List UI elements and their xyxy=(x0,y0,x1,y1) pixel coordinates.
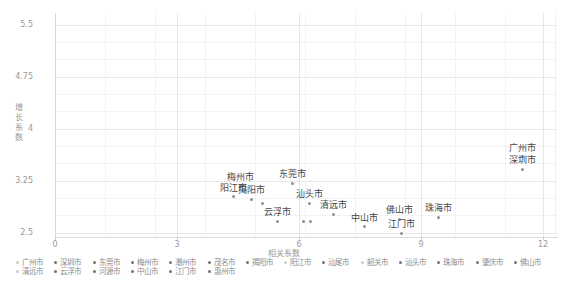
grid-minor-v xyxy=(205,13,206,237)
legend-marker-icon xyxy=(169,261,172,264)
data-point[interactable] xyxy=(309,220,312,223)
legend-marker-icon xyxy=(131,261,134,264)
grid-major-v xyxy=(177,13,178,237)
plot-area: 2.53.2544.755.5036912广州市深圳市梅州市东莞市阳江市揭阳市汕… xyxy=(0,0,563,289)
legend-item[interactable]: 阳江市 xyxy=(284,257,311,267)
grid-minor-h xyxy=(55,146,557,147)
grid-minor-v xyxy=(305,13,306,237)
legend-item-label: 汕尾市 xyxy=(328,258,349,267)
data-point-label: 江门市 xyxy=(388,219,415,229)
data-point[interactable] xyxy=(232,195,235,198)
legend-marker-icon xyxy=(54,261,57,264)
x-tick-label: 12 xyxy=(531,241,555,249)
grid-major-v xyxy=(299,13,300,237)
grid-major-h xyxy=(55,129,557,130)
legend-item[interactable]: 惠州市 xyxy=(208,266,235,276)
data-point-label: 清远市 xyxy=(320,200,347,210)
grid-minor-v xyxy=(505,13,506,237)
legend-marker-icon xyxy=(208,261,211,264)
x-tick-label: 0 xyxy=(43,241,67,249)
legend-item-label: 韶关市 xyxy=(367,258,388,267)
legend-item-label: 云浮市 xyxy=(60,267,81,276)
grid-minor-h xyxy=(55,59,557,60)
data-point[interactable] xyxy=(521,168,524,171)
legend-item-label: 肇庆市 xyxy=(482,258,503,267)
legend-item[interactable]: 肇庆市 xyxy=(476,257,503,267)
grid-minor-h xyxy=(55,215,557,216)
data-point[interactable] xyxy=(308,202,311,205)
grid-major-v xyxy=(543,13,544,237)
legend-item[interactable]: 韶关市 xyxy=(361,257,388,267)
grid-major-h xyxy=(55,181,557,182)
data-point[interactable] xyxy=(291,182,294,185)
legend-marker-icon xyxy=(361,261,364,264)
grid-minor-v xyxy=(105,13,106,237)
legend-marker-icon xyxy=(169,270,172,273)
legend-item[interactable]: 河源市 xyxy=(93,266,120,276)
legend-item[interactable]: 江门市 xyxy=(169,266,196,276)
legend-item[interactable]: 珠海市 xyxy=(437,257,464,267)
legend-marker-icon xyxy=(16,270,19,273)
y-tick-label: 4.75 xyxy=(7,73,33,81)
data-point[interactable] xyxy=(276,220,279,223)
data-point[interactable] xyxy=(250,198,253,201)
data-point[interactable] xyxy=(261,202,264,205)
data-point-label: 云浮市 xyxy=(264,207,291,217)
grid-minor-h xyxy=(55,111,557,112)
data-point-label: 梅州市 xyxy=(227,172,254,182)
legend-item-label: 珠海市 xyxy=(443,258,464,267)
legend-item[interactable]: 中山市 xyxy=(131,266,158,276)
data-point-label: 广州市 xyxy=(509,143,536,153)
data-point-label: 汕头市 xyxy=(296,189,323,199)
grid-minor-h xyxy=(55,94,557,95)
legend-marker-icon xyxy=(399,261,402,264)
legend-item-label: 佛山市 xyxy=(520,258,541,267)
legend-item-label: 揭阳市 xyxy=(252,258,273,267)
legend-item[interactable]: 汕头市 xyxy=(399,257,426,267)
x-axis-line xyxy=(55,237,558,238)
legend-item[interactable]: 汕尾市 xyxy=(322,257,349,267)
scatter-chart: 2.53.2544.755.5036912广州市深圳市梅州市东莞市阳江市揭阳市汕… xyxy=(0,0,563,289)
x-tick-label: 3 xyxy=(165,241,189,249)
data-point-label: 深圳市 xyxy=(509,155,536,165)
legend-marker-icon xyxy=(93,261,96,264)
grid-major-h xyxy=(55,25,557,26)
legend-item-label: 中山市 xyxy=(137,267,158,276)
grid-major-h xyxy=(55,77,557,78)
grid-minor-v xyxy=(455,13,456,237)
legend-item-label: 汕头市 xyxy=(405,258,426,267)
grid-minor-h xyxy=(55,163,557,164)
data-point-label: 中山市 xyxy=(351,213,378,223)
legend-item[interactable]: 云浮市 xyxy=(54,266,81,276)
grid-minor-v xyxy=(255,13,256,237)
data-point-label: 东莞市 xyxy=(279,169,306,179)
legend-marker-icon xyxy=(284,261,287,264)
legend-item-label: 江门市 xyxy=(175,267,196,276)
y-tick-label: 3.25 xyxy=(7,177,33,185)
data-point-label: 揭阳市 xyxy=(238,185,265,195)
legend-marker-icon xyxy=(131,270,134,273)
legend-marker-icon xyxy=(322,261,325,264)
y-axis-line xyxy=(55,13,56,237)
legend-marker-icon xyxy=(16,261,19,264)
data-point-label: 佛山市 xyxy=(386,205,413,215)
legend-item[interactable]: 佛山市 xyxy=(514,257,541,267)
grid-minor-v xyxy=(355,13,356,237)
legend-item-label: 河源市 xyxy=(99,267,120,276)
legend-item[interactable]: 揭阳市 xyxy=(246,257,273,267)
grid-minor-v xyxy=(405,13,406,237)
legend-item-label: 惠州市 xyxy=(214,267,235,276)
data-point[interactable] xyxy=(437,216,440,219)
legend-item-label: 清远市 xyxy=(22,267,43,276)
data-point[interactable] xyxy=(400,232,403,235)
data-point[interactable] xyxy=(332,213,335,216)
legend-marker-icon xyxy=(437,261,440,264)
legend-item-label: 阳江市 xyxy=(290,258,311,267)
x-tick-label: 9 xyxy=(409,241,433,249)
data-point[interactable] xyxy=(363,225,366,228)
data-point[interactable] xyxy=(302,220,305,223)
grid-minor-v xyxy=(555,13,556,237)
legend-item[interactable]: 清远市 xyxy=(16,266,43,276)
y-tick-label: 2.5 xyxy=(7,229,33,237)
legend-marker-icon xyxy=(208,270,211,273)
